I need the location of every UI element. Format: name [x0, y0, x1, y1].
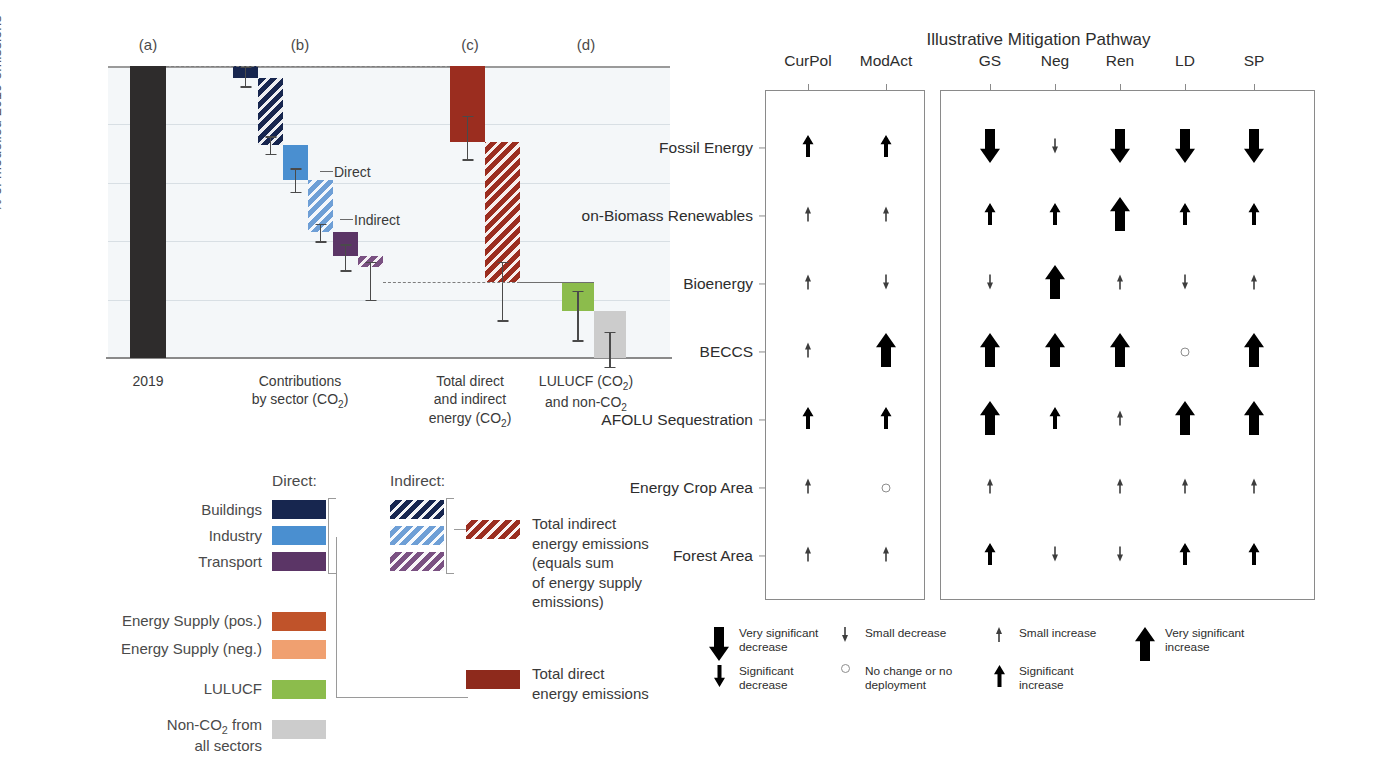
small-inc-arrow-icon [1181, 478, 1189, 499]
small-inc-arrow-icon [882, 206, 890, 227]
vsig-dec-arrow-icon [1174, 128, 1196, 168]
matrix-cell [979, 400, 1001, 440]
matrix-cell [882, 274, 890, 295]
column-tick [1120, 84, 1121, 90]
error-cap [340, 270, 351, 272]
sig-inc-arrow-icon [1248, 202, 1261, 230]
matrix-cell [804, 342, 812, 363]
matrix-cell [882, 206, 890, 227]
matrix-cell [802, 134, 815, 162]
error-cap [290, 192, 301, 194]
legend-swatch-total-indirect [466, 520, 520, 539]
row-label-on-biomass-renewables: on-Biomass Renewables [582, 207, 753, 225]
legend-label-energy-supply-neg: Energy Supply (neg.) [121, 640, 262, 659]
arrow-legend-label: Very significant decrease [739, 626, 818, 655]
row-label-energy-crop-area: Energy Crop Area [630, 479, 753, 497]
gridline [106, 357, 672, 359]
matrix-cell [880, 134, 893, 162]
vsig-dec-arrow-icon [1109, 128, 1131, 168]
small-dec-arrow-icon [1051, 138, 1059, 159]
column-header-neg: Neg [1041, 52, 1069, 70]
matrix-cell [1116, 478, 1124, 499]
matrix-cell [1049, 406, 1062, 434]
error-bar [467, 116, 469, 160]
sig-inc-arrow-icon [984, 542, 997, 570]
matrix-cell [1116, 274, 1124, 295]
vsig-inc-arrow-icon [979, 332, 1001, 372]
chart-legend: Direct:Indirect:BuildingsIndustryTranspo… [0, 452, 700, 752]
error-cap [573, 340, 584, 342]
legend-swatch-transport-indirect [390, 552, 444, 571]
sig-inc-arrow-icon [880, 406, 893, 434]
arrow-legend-label: Small increase [1019, 626, 1096, 640]
error-cap [290, 168, 301, 170]
arrow-legend-item: Small increase [988, 626, 1096, 643]
arrow-legend-item: Significant increase [988, 664, 1073, 693]
matrix-cell [1051, 138, 1059, 159]
legend-label-industry: Industry [209, 527, 262, 546]
row-tick [759, 283, 765, 284]
legend-heading-indirect: Indirect: [390, 472, 445, 490]
matrix-box-group-1 [765, 90, 925, 600]
vsig-inc-arrow-icon [1044, 264, 1066, 304]
panel-letter: (a) [139, 36, 157, 53]
matrix-cell [1116, 546, 1124, 567]
sig-inc-arrow-icon [1179, 202, 1192, 230]
x-category-label: Total directand indirectenergy (CO2) [429, 372, 512, 430]
small-inc-arrow-icon [1250, 478, 1258, 499]
matrix-cell [880, 406, 893, 434]
error-bar [609, 332, 611, 367]
gridline [108, 241, 670, 242]
row-label-bioenergy: Bioenergy [683, 275, 753, 293]
small-dec-arrow-icon [1181, 274, 1189, 295]
column-tick [1055, 84, 1056, 90]
matrix-cell [1109, 196, 1131, 236]
legend-swatch-industry-direct [272, 526, 326, 545]
error-cap [573, 291, 584, 293]
bar-buildings-indirect [258, 78, 283, 145]
row-tick [759, 419, 765, 420]
sig-inc-arrow-icon [1049, 202, 1062, 230]
matrix-cell [1248, 202, 1261, 230]
error-cap [365, 300, 376, 302]
small-inc-arrow-icon [882, 546, 890, 567]
gridline [108, 124, 670, 125]
small-inc-arrow-icon [1116, 274, 1124, 295]
panel-letter-row: (a)(b)(c)(d) [0, 36, 700, 58]
column-header-ren: Ren [1106, 52, 1134, 70]
legend-swatch-energy-supply-neg [272, 640, 326, 659]
matrix-cell [1109, 128, 1131, 168]
vsig-dec-arrow-icon [979, 128, 1001, 168]
sig-inc-arrow-icon [1049, 406, 1062, 434]
small-dec-arrow-icon [986, 274, 994, 295]
matrix-cell [984, 542, 997, 570]
sig-dec-legend-icon [708, 664, 730, 688]
matrix-cell [804, 478, 812, 499]
legend-connector [336, 537, 337, 697]
mitigation-pathway-matrix: Illustrative Mitigation Pathway CurPolMo… [700, 0, 1377, 761]
x-category-label: 2019 [132, 372, 163, 390]
no-change-icon [841, 664, 850, 673]
small-inc-arrow-icon [804, 478, 812, 499]
arrow-legend-item: Very significant increase [1134, 626, 1244, 662]
legend-swatch-lulucf [272, 680, 326, 699]
error-cap [265, 136, 276, 138]
small-inc-arrow-icon [986, 478, 994, 499]
legend-label-energy-supply-pos: Energy Supply (pos.) [122, 612, 262, 631]
arrow-legend-item: Small decrease [834, 626, 946, 643]
arrow-legend-label: Significant decrease [739, 664, 793, 693]
matrix-cell [1179, 202, 1192, 230]
legend-swatch-non-co2-from-all-sectors [272, 720, 326, 739]
column-header-gs: GS [979, 52, 1001, 70]
small-inc-legend-icon [988, 626, 1010, 643]
error-cap [315, 241, 326, 243]
error-cap [462, 116, 473, 118]
legend-brace [446, 498, 454, 574]
matrix-cell [1181, 348, 1190, 357]
gridline [108, 183, 670, 184]
error-cap [462, 159, 473, 161]
small-inc-arrow-icon [1250, 274, 1258, 295]
error-cap [497, 262, 508, 264]
matrix-cell [1109, 332, 1131, 372]
vsig-inc-arrow-icon [875, 332, 897, 372]
